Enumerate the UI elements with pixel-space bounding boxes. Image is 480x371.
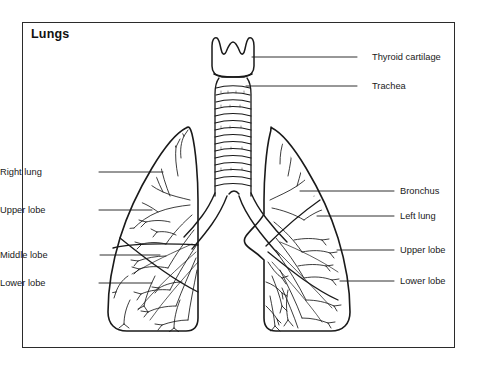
trachea-shape	[215, 78, 251, 196]
label-bronchus: Bronchus	[400, 187, 439, 196]
label-upper-lobe-right: Upper lobe	[0, 206, 28, 215]
label-right-lung: Right lung	[0, 168, 28, 177]
label-lower-lobe-left: Lower lobe	[400, 277, 445, 286]
label-trachea: Trachea	[372, 82, 406, 91]
main-bronchi	[184, 191, 287, 255]
label-upper-lobe-left: Upper lobe	[400, 246, 445, 255]
left-lung-fissure	[266, 200, 338, 300]
label-lower-lobe-right: Lower lobe	[0, 279, 28, 288]
leader-lines	[99, 57, 394, 283]
label-middle-lobe: Middle lobe	[0, 251, 24, 260]
left-lung-bronchial-tree	[266, 127, 341, 331]
right-lung-outline	[108, 127, 198, 331]
thyroid-cartilage-shape	[212, 38, 254, 77]
left-lung-outline	[244, 127, 350, 331]
lungs-diagram-page: Lungs	[0, 0, 480, 371]
label-left-lung: Left lung	[400, 212, 436, 221]
label-thyroid-cartilage: Thyroid cartilage	[372, 53, 441, 62]
